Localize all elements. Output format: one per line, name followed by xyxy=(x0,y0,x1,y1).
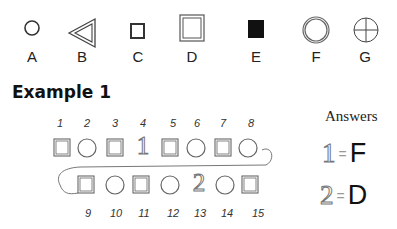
shape-a-circle-icon xyxy=(25,21,39,35)
answer-equals: = xyxy=(339,146,347,162)
seq-number-5: 5 xyxy=(163,117,183,129)
sequence-row-2 xyxy=(78,176,258,194)
seq-number-4: 4 xyxy=(133,117,153,129)
shape-d-square-double-icon xyxy=(180,15,204,41)
shape-c-square-icon xyxy=(131,24,144,38)
seq-number-1: 1 xyxy=(50,117,70,129)
shape-b-triangle-icon xyxy=(69,19,95,47)
shape-f-double-circle-icon xyxy=(303,17,329,43)
legend-label-a: A xyxy=(22,48,42,65)
legend-label-b: B xyxy=(72,48,92,65)
seq-number-10: 10 xyxy=(106,207,126,219)
seq-number-2: 2 xyxy=(77,117,97,129)
seq-number-6: 6 xyxy=(187,117,207,129)
seq-digit-2: 2 xyxy=(189,169,209,197)
answer-letter: D xyxy=(348,180,368,211)
sequence-row-1 xyxy=(54,139,257,157)
seq-number-7: 7 xyxy=(213,117,233,129)
answer-number: 1 xyxy=(322,138,336,169)
seq-number-3: 3 xyxy=(105,117,125,129)
legend-label-e: E xyxy=(246,48,266,65)
shape-g-crosshair-icon xyxy=(354,18,378,42)
answers-title: Answers xyxy=(325,108,378,125)
legend-label-c: C xyxy=(128,48,148,65)
answer-letter: F xyxy=(350,138,367,169)
seq-number-9: 9 xyxy=(78,207,98,219)
answer-number: 2 xyxy=(320,180,334,211)
legend-label-g: G xyxy=(355,48,375,65)
seq-number-13: 13 xyxy=(190,207,210,219)
legend-label-f: F xyxy=(306,48,326,65)
seq-digit-1: 1 xyxy=(133,132,153,160)
seq-number-12: 12 xyxy=(163,207,183,219)
legend-label-d: D xyxy=(182,48,202,65)
seq-number-14: 14 xyxy=(217,207,237,219)
seq-number-8: 8 xyxy=(241,117,261,129)
answer-row-1: 1 = F xyxy=(322,138,366,169)
seq-number-11: 11 xyxy=(134,207,154,219)
answer-equals: = xyxy=(337,188,345,204)
answer-row-2: 2 = D xyxy=(320,180,367,211)
seq-number-15: 15 xyxy=(248,207,268,219)
shape-e-filled-square-icon xyxy=(248,20,264,38)
example-title: Example 1 xyxy=(12,82,111,102)
